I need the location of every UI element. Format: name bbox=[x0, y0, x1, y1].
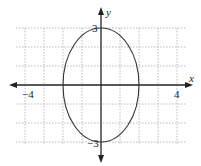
coordinate-plane bbox=[0, 0, 201, 166]
x-axis-left-arrow-icon bbox=[9, 82, 17, 88]
axes bbox=[12, 10, 190, 160]
y-axis-label: y bbox=[106, 7, 111, 18]
y-tick-top: 3 bbox=[92, 23, 98, 34]
x-axis-label: x bbox=[189, 73, 194, 84]
ellipse-figure: y x −4 4 3 −3 bbox=[0, 0, 201, 166]
y-axis-up-arrow-icon bbox=[98, 7, 104, 15]
y-axis-down-arrow-icon bbox=[98, 155, 104, 163]
x-tick-left: −4 bbox=[22, 89, 34, 100]
x-tick-right: 4 bbox=[174, 89, 180, 100]
y-tick-bottom: −3 bbox=[87, 138, 99, 149]
